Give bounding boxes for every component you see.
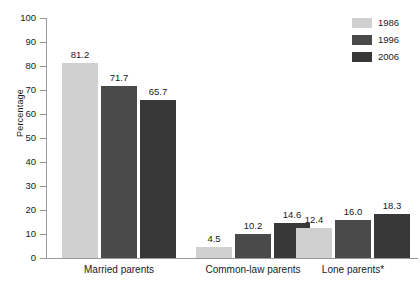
bar-chart: Percentage 1009080706050403020100 81.271… [0, 0, 420, 286]
bar [296, 228, 332, 258]
y-axis-tick [40, 186, 46, 187]
y-axis-tick-label: 80 [2, 61, 36, 71]
bar-value-label: 71.7 [101, 73, 137, 83]
legend-swatch [352, 18, 372, 28]
x-axis-group-label: Lone parents* [283, 264, 420, 275]
legend-swatch [352, 35, 372, 45]
bar [335, 220, 371, 258]
x-axis-group-label: Married parents [49, 264, 189, 275]
y-axis-tick-label: 10 [2, 229, 36, 239]
legend-item: 1996 [352, 33, 418, 47]
y-axis-tick [40, 162, 46, 163]
y-axis-tick [40, 258, 46, 259]
y-axis-tick-label: 30 [2, 181, 36, 191]
y-axis-tick-label: 90 [2, 37, 36, 47]
y-axis-tick-label: 0 [2, 253, 36, 263]
bar [196, 247, 232, 258]
legend-label: 1986 [378, 18, 399, 28]
y-axis-tick [40, 138, 46, 139]
y-axis-tick [40, 210, 46, 211]
legend: 198619962006 [352, 16, 418, 67]
y-axis-tick [40, 66, 46, 67]
bar-value-label: 10.2 [235, 221, 271, 231]
bar [101, 86, 137, 258]
legend-label: 2006 [378, 52, 399, 62]
bar-value-label: 65.7 [140, 87, 176, 97]
legend-swatch [352, 52, 372, 62]
y-axis-tick [40, 90, 46, 91]
bar-value-label: 18.3 [374, 201, 410, 211]
y-axis-tick-label: 20 [2, 205, 36, 215]
y-axis-tick-label: 50 [2, 133, 36, 143]
bar-value-label: 81.2 [62, 50, 98, 60]
bar-value-label: 12.4 [296, 215, 332, 225]
legend-item: 2006 [352, 50, 418, 64]
bar [62, 63, 98, 258]
bar [140, 100, 176, 258]
y-axis-tick-label: 60 [2, 109, 36, 119]
bar-value-label: 4.5 [196, 234, 232, 244]
y-axis-line [46, 18, 47, 259]
x-axis-line [46, 258, 418, 259]
y-axis-tick-label: 40 [2, 157, 36, 167]
y-axis-tick [40, 114, 46, 115]
bar [374, 214, 410, 258]
y-axis-tick [40, 18, 46, 19]
y-axis-tick [40, 234, 46, 235]
y-axis-tick-label: 100 [2, 13, 36, 23]
legend-item: 1986 [352, 16, 418, 30]
y-axis-tick-label: 70 [2, 85, 36, 95]
legend-label: 1996 [378, 35, 399, 45]
bar-value-label: 16.0 [335, 207, 371, 217]
y-axis-tick [40, 42, 46, 43]
bar [235, 234, 271, 258]
